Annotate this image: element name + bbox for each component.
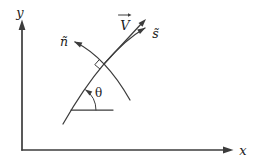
diagram-canvas: y x V s̃ ñ θ bbox=[0, 0, 257, 164]
tangent-vector-label: s̃ bbox=[152, 26, 159, 41]
normal-vector-arrowhead-icon bbox=[74, 42, 82, 48]
velocity-vector-overarrow-icon bbox=[119, 13, 132, 16]
streamline-coordinates-figure: y x V s̃ ñ θ bbox=[0, 0, 257, 164]
normal-vector-label: ñ bbox=[60, 34, 68, 49]
x-axis-arrowhead-icon bbox=[223, 147, 234, 154]
tangent-vector-arrowhead-icon bbox=[137, 28, 145, 34]
right-angle-marker bbox=[95, 60, 100, 69]
y-axis-arrowhead-icon bbox=[19, 20, 26, 31]
angle-theta-label: θ bbox=[95, 86, 102, 100]
velocity-vector-label: V bbox=[120, 18, 131, 33]
y-axis-label: y bbox=[15, 5, 24, 20]
x-axis-label: x bbox=[239, 143, 247, 158]
